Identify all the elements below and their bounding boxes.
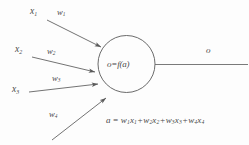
weight-label-w4: w4 bbox=[49, 110, 57, 119]
input-label-x2: x2 bbox=[15, 45, 22, 55]
neuron-function-label: o=f(a) bbox=[107, 60, 129, 69]
weight-label-w2: w2 bbox=[47, 47, 55, 56]
output-label: o bbox=[206, 46, 211, 55]
weight-label-w3: w3 bbox=[52, 74, 60, 83]
input-arrow-3 bbox=[29, 84, 98, 92]
input-arrow-4 bbox=[52, 98, 106, 140]
input-label-x1: x1 bbox=[30, 7, 37, 17]
input-arrow-2 bbox=[32, 57, 95, 72]
input-arrow-1 bbox=[47, 20, 101, 47]
weight-label-w1: w1 bbox=[57, 8, 65, 17]
activation-equation: a = w1x1+w2x2+w3x3+w4x4 bbox=[106, 116, 204, 125]
neuron-diagram: x1 w1 x2 w2 x3 w3 w4 o=f(a) o a = w1x1+w… bbox=[0, 0, 249, 145]
input-label-x3: x3 bbox=[12, 85, 19, 95]
